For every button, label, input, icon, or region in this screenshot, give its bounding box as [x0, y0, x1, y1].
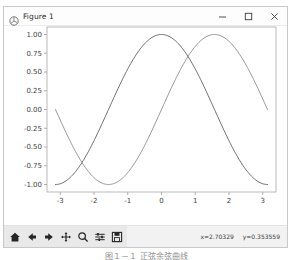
save-disk-icon[interactable]: [108, 227, 125, 247]
axis-ticks: [44, 35, 263, 196]
title-bar: Figure 1: [4, 7, 287, 26]
pan-move-icon[interactable]: [57, 227, 74, 247]
matplotlib-figure-icon: [9, 11, 19, 21]
svg-text:0.50: 0.50: [26, 68, 42, 76]
figure-caption: 图１－１ 正弦余弦曲线: [0, 250, 293, 260]
svg-text:0.75: 0.75: [26, 50, 42, 58]
home-icon[interactable]: [6, 227, 23, 247]
svg-text:-3: -3: [57, 197, 64, 205]
svg-text:-1: -1: [124, 197, 131, 205]
svg-text:3: 3: [261, 197, 265, 205]
window-controls: [209, 7, 287, 25]
minimize-button[interactable]: [209, 7, 235, 26]
cursor-coordinates: x=2.70329 y=0.353559: [200, 233, 287, 240]
svg-text:0.00: 0.00: [26, 106, 42, 114]
figure-window: Figure 1: [3, 6, 288, 248]
figure-canvas[interactable]: -3-2-10123-1.00-0.75-0.50-0.250.000.250.…: [4, 26, 287, 225]
axis-tick-labels: -3-2-10123-1.00-0.75-0.50-0.250.000.250.…: [24, 31, 265, 205]
svg-text:1: 1: [193, 197, 197, 205]
configure-subplots-icon[interactable]: [91, 227, 108, 247]
svg-text:-0.25: -0.25: [24, 125, 42, 133]
window-title: Figure 1: [23, 12, 54, 21]
back-arrow-icon[interactable]: [23, 227, 40, 247]
cursor-x-value: x=2.70329: [200, 233, 233, 240]
svg-text:0: 0: [159, 197, 163, 205]
plot-area[interactable]: -3-2-10123-1.00-0.75-0.50-0.250.000.250.…: [4, 26, 287, 206]
zoom-magnifier-icon[interactable]: [74, 227, 91, 247]
svg-text:-0.75: -0.75: [24, 162, 42, 170]
toolbar-button-group: [4, 226, 127, 247]
data-curves: [55, 35, 267, 185]
svg-text:-2: -2: [91, 197, 98, 205]
svg-text:2: 2: [227, 197, 231, 205]
cursor-y-value: y=0.353559: [243, 233, 280, 240]
svg-text:-1.00: -1.00: [24, 181, 42, 189]
screenshot-root: Figure 1: [0, 0, 293, 260]
svg-text:-0.50: -0.50: [24, 143, 42, 151]
maximize-button[interactable]: [235, 7, 261, 26]
forward-arrow-icon[interactable]: [40, 227, 57, 247]
navigation-toolbar: x=2.70329 y=0.353559: [4, 225, 287, 247]
close-button[interactable]: [261, 7, 287, 26]
svg-text:0.25: 0.25: [26, 87, 42, 95]
svg-text:1.00: 1.00: [26, 31, 42, 39]
